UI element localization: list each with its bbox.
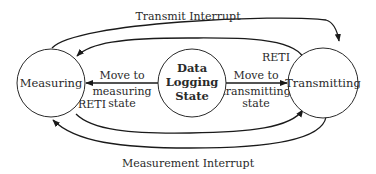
reti-top-label: RETI: [262, 51, 290, 64]
node-measuring: Measuring: [17, 49, 85, 117]
logging-line1: Data: [177, 61, 208, 75]
move-to-measuring-line3: state: [108, 97, 136, 110]
edge-transmit-interrupt: Transmit Interrupt: [52, 10, 339, 48]
measuring-label: Measuring: [20, 76, 83, 90]
logging-line2: Logging: [166, 75, 219, 89]
edge-move-to-transmitting: Move to transmitting state: [221, 69, 290, 110]
move-to-measuring-line1: Move to: [99, 69, 145, 82]
node-data-logging-state: Data Logging State: [158, 49, 226, 117]
transmitting-label: Transmitting: [285, 76, 361, 90]
transmit-interrupt-label: Transmit Interrupt: [135, 10, 241, 23]
measurement-interrupt-label: Measurement Interrupt: [122, 157, 255, 170]
node-transmitting: Transmitting: [285, 48, 361, 118]
logging-line3: State: [175, 89, 209, 103]
reti-bottom-label: RETI: [78, 98, 106, 111]
state-diagram: Transmit Interrupt RETI Move to measurin…: [0, 0, 376, 174]
move-to-transmitting-line1: Move to: [233, 69, 279, 82]
move-to-transmitting-line3: state: [242, 97, 270, 110]
